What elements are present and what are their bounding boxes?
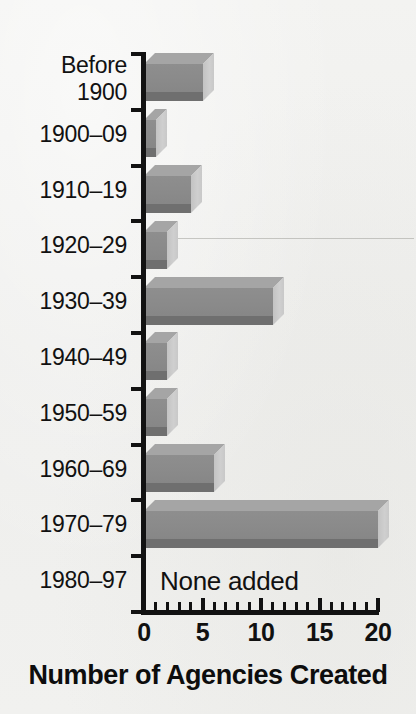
category-label: 1900–09 [12, 121, 127, 147]
x-axis-minor-tick [306, 602, 309, 612]
category-label: 1960–69 [12, 456, 127, 482]
bar [144, 221, 178, 269]
category-label-line: 1920–29 [12, 232, 127, 258]
category-label: 1950–59 [12, 400, 127, 426]
x-axis-tick-label: 20 [365, 618, 392, 647]
x-axis-minor-tick [353, 602, 356, 612]
category-label-line: 1900–09 [12, 121, 127, 147]
bar-top-face [144, 277, 284, 288]
y-axis-tick [131, 554, 142, 558]
bar [144, 332, 178, 380]
bar-bottom-shadow [144, 204, 191, 213]
category-label-line: 1980–97 [12, 567, 127, 593]
y-axis-tick [131, 498, 142, 502]
x-axis-major-tick [142, 598, 146, 612]
category-label: 1940–49 [12, 344, 127, 370]
x-axis-minor-tick [330, 602, 333, 612]
x-axis-minor-tick [189, 602, 192, 612]
x-axis-minor-tick [154, 602, 157, 612]
y-axis-tick [131, 275, 142, 279]
category-label: 1910–19 [12, 177, 127, 203]
category-label-line: 1910–19 [12, 177, 127, 203]
x-axis-major-tick [201, 598, 205, 612]
bar [144, 444, 225, 492]
x-axis-title: Number of Agencies Created [0, 660, 416, 691]
y-axis-tick [131, 331, 142, 335]
bar-bottom-shadow [144, 483, 214, 492]
x-axis-minor-tick [166, 602, 169, 612]
x-axis-major-tick [259, 598, 263, 612]
category-label: 1970–79 [12, 511, 127, 537]
category-label-line: Before [12, 52, 127, 79]
bar [144, 388, 178, 436]
bar-bottom-shadow [144, 371, 167, 380]
bar-bottom-shadow [144, 92, 203, 101]
category-label-line: 1930–39 [12, 288, 127, 314]
bar-bottom-shadow [144, 427, 167, 436]
bar-side-face [167, 221, 178, 269]
category-label-line: 1950–59 [12, 400, 127, 426]
bar [144, 500, 389, 548]
x-axis-major-tick [318, 598, 322, 612]
category-label-line: 1970–79 [12, 511, 127, 537]
category-label: 1980–97 [12, 567, 127, 593]
x-axis-minor-tick [178, 602, 181, 612]
category-label: Before1900 [12, 52, 127, 106]
agencies-created-bar-chart: Before19001900–091910–191920–291930–3919… [0, 0, 416, 714]
bar-bottom-shadow [144, 539, 378, 548]
bar-bottom-shadow [144, 316, 273, 325]
category-label: 1920–29 [12, 232, 127, 258]
category-label-line: 1900 [12, 79, 127, 106]
y-axis-tick [131, 610, 142, 614]
x-axis-minor-tick [213, 602, 216, 612]
scan-artifact-line [148, 238, 414, 239]
bar-side-face [167, 388, 178, 436]
x-axis-minor-tick [224, 602, 227, 612]
bar-side-face [214, 444, 225, 492]
y-axis-tick [131, 164, 142, 168]
y-axis-tick [131, 219, 142, 223]
x-axis-minor-tick [271, 602, 274, 612]
x-axis-minor-tick [295, 602, 298, 612]
x-axis-minor-tick [341, 602, 344, 612]
bar-top-face [144, 444, 225, 455]
category-label: 1930–39 [12, 288, 127, 314]
x-axis-minor-tick [283, 602, 286, 612]
bar [144, 53, 214, 101]
bar-bottom-shadow [144, 260, 167, 269]
x-axis-minor-tick [236, 602, 239, 612]
bar-side-face [167, 332, 178, 380]
x-axis-tick-label: 10 [248, 618, 275, 647]
bar [144, 109, 167, 157]
none-added-annotation: None added [160, 566, 299, 597]
plot-area: Before19001900–091910–191920–291930–3919… [0, 0, 416, 714]
y-axis-tick [131, 443, 142, 447]
bar-top-face [144, 500, 389, 511]
y-axis-tick [131, 108, 142, 112]
x-axis-tick-label: 5 [196, 618, 209, 647]
bar [144, 277, 284, 325]
bar [144, 165, 202, 213]
x-axis-minor-tick [365, 602, 368, 612]
x-axis-minor-tick [248, 602, 251, 612]
x-axis-tick-label: 0 [137, 618, 150, 647]
x-axis-major-tick [376, 598, 380, 612]
x-axis-tick-label: 15 [306, 618, 333, 647]
y-axis-tick [131, 387, 142, 391]
category-label-line: 1960–69 [12, 456, 127, 482]
category-label-line: 1940–49 [12, 344, 127, 370]
y-axis-tick [131, 52, 142, 56]
